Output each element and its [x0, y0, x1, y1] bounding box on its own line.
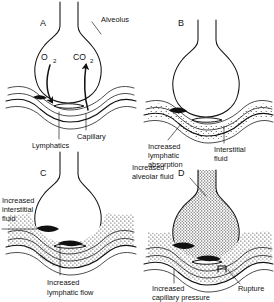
capillary-label: Capillary: [77, 132, 106, 141]
interstitial-fluid-label: Interstitial fluid: [214, 145, 246, 163]
panel-letter-b: B: [178, 18, 184, 28]
interstitial-fluid-line-1: Interstitial: [214, 145, 246, 154]
rupture-label: Rupture: [238, 284, 264, 293]
increased-interstitial-fluid-line-1: Increased: [2, 196, 34, 205]
co2-label: CO 2: [73, 52, 94, 64]
co2-label-main: CO: [73, 52, 86, 62]
increased-capillary-pressure-label: Increased capillary pressure: [152, 284, 210, 302]
figure-container: O 2 CO 2 Alveolus Capillary Lymphatics A: [0, 0, 274, 302]
panel-a: O 2 CO 2 Alveolus Capillary Lymphatics A: [6, 2, 136, 150]
panel-d-alveolus-shape: [173, 170, 239, 265]
increased-capillary-pressure-line-1: Increased: [152, 284, 184, 293]
o2-label-subscript: 2: [53, 57, 57, 64]
alveolus-label: Alveolus: [101, 15, 129, 24]
increased-interstitial-fluid-line-2: interstitial: [2, 205, 34, 214]
o2-label: O 2: [41, 52, 57, 64]
increased-interstitial-fluid-line-3: fluid: [2, 214, 16, 223]
co2-arrow: [85, 65, 88, 110]
increased-lymphatic-absorption-line-2: lymphatic: [148, 151, 180, 160]
panel-c-interstitium: [6, 213, 136, 275]
increased-alveolar-fluid-line-2: alveolar fluid: [132, 172, 174, 181]
panel-letter-d: D: [178, 168, 185, 178]
o2-arrow: [47, 65, 52, 102]
increased-capillary-pressure-line-2: capillary pressure: [152, 293, 210, 302]
increased-lymphatic-absorption-line-1: Increased: [148, 142, 180, 151]
interstitial-fluid-line-2: fluid: [214, 154, 228, 163]
panel-letter-a: A: [40, 18, 46, 28]
increased-lymphatic-flow-label: Increased lymphatic flow: [47, 278, 94, 297]
alveolus-diagram-svg: O 2 CO 2 Alveolus Capillary Lymphatics A: [0, 0, 274, 302]
panel-c: Increased interstitial fluid Increased l…: [2, 152, 136, 297]
o2-label-main: O: [41, 52, 48, 62]
panel-a-interstitium: [6, 86, 136, 129]
panel-b-interstitium: [144, 100, 273, 143]
increased-alveolar-fluid-line-1: Increased: [132, 163, 164, 172]
increased-lymphatic-flow-line-1: Increased: [47, 278, 79, 287]
increased-lymphatic-flow-line-2: lymphatic flow: [47, 288, 94, 297]
panel-d: Increased alveolar fluid Increased capil…: [132, 163, 273, 302]
co2-label-subscript: 2: [90, 57, 94, 64]
panel-b-alveolus-shape: [173, 20, 239, 117]
lymphatics-label: Lymphatics: [32, 141, 69, 150]
alveolus-leader-line: [92, 22, 101, 34]
panel-letter-c: C: [40, 168, 47, 178]
panel-d-increased-alveolar-fluid-fill: [173, 170, 239, 265]
panel-b: Increased lymphatic absorption Interstit…: [144, 18, 273, 169]
